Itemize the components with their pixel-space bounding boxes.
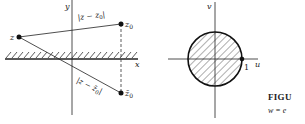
diagram-canvas: y x z z0 z̄0 |z − z0| |z − z̄0| v u 1 <box>0 0 305 124</box>
hatched-boundary <box>6 52 137 58</box>
label-distance-z-z0: |z − z0| <box>77 10 106 23</box>
figure-caption-title: FIGU <box>268 92 292 102</box>
label-z: z <box>9 33 15 42</box>
label-z0: z0 <box>124 20 133 30</box>
label-distance-z-zbar0: |z − z̄0| <box>75 76 104 97</box>
point-zbar0 <box>119 91 124 96</box>
point-one <box>240 57 245 62</box>
left-figure: y x z z0 z̄0 |z − z0| |z − z̄0| <box>5 0 140 115</box>
x-axis-label: x <box>135 60 140 69</box>
v-axis-label: v <box>207 2 212 11</box>
point-z <box>17 35 22 40</box>
point-z0 <box>119 22 124 27</box>
segment-z-z0 <box>19 24 121 37</box>
right-figure: v u 1 <box>168 2 260 118</box>
y-axis-label: y <box>64 2 70 11</box>
figure-caption-equation: w = e <box>268 106 286 115</box>
label-zbar0: z̄0 <box>124 89 133 99</box>
tick-label-one: 1 <box>244 63 249 72</box>
u-axis-label: u <box>255 60 260 69</box>
segment-z-zbar0 <box>19 37 121 93</box>
